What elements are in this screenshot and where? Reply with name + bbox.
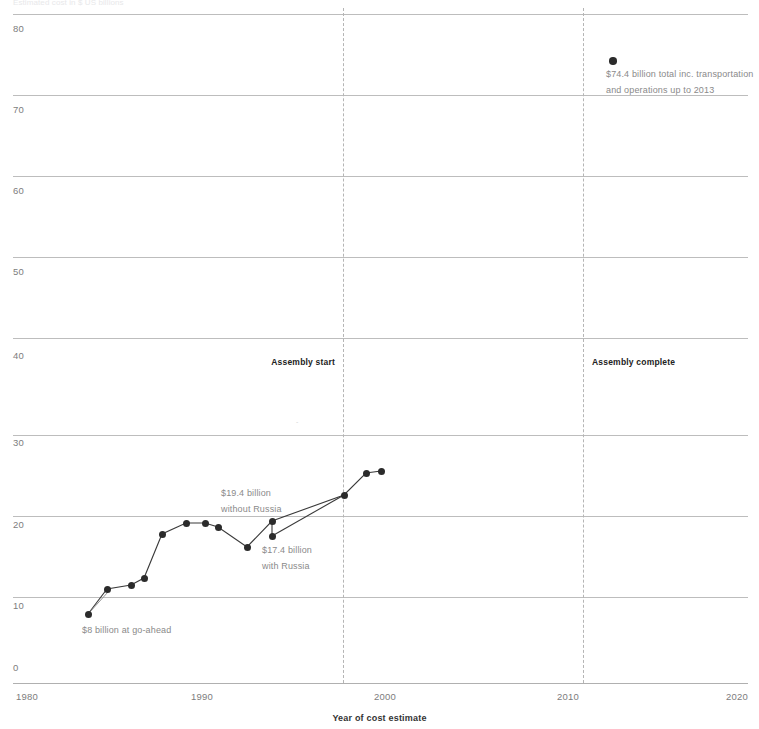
data-point xyxy=(141,575,148,582)
go-ahead-leader-line xyxy=(89,592,108,613)
annotation-total-2013: $74.4 billion total inc. transportation … xyxy=(606,66,753,98)
with-russia-branch-line xyxy=(272,495,344,536)
data-point xyxy=(202,520,209,527)
plot-area: 80 70 60 50 40 30 20 10 0 - Assembly sta… xyxy=(0,0,759,729)
data-point-with-russia xyxy=(269,533,276,540)
annotation-with-russia-line1: $17.4 billion xyxy=(262,542,312,558)
annotation-go-ahead: $8 billion at go-ahead xyxy=(82,622,171,638)
data-point xyxy=(341,492,348,499)
data-point-total-2013 xyxy=(609,57,617,65)
xtick-2010: 2010 xyxy=(557,691,579,702)
annotation-total-2013-line2: and operations up to 2013 xyxy=(606,82,753,98)
annotation-with-russia: $17.4 billion with Russia xyxy=(262,542,312,574)
data-point xyxy=(378,468,385,475)
data-point xyxy=(215,524,222,531)
series-lines xyxy=(0,0,759,729)
data-point xyxy=(363,470,370,477)
data-point xyxy=(128,582,135,589)
xtick-2000: 2000 xyxy=(374,691,396,702)
annotation-without-russia-line1: $19.4 billion xyxy=(221,485,282,501)
data-point xyxy=(159,531,166,538)
data-point xyxy=(104,586,111,593)
xtick-1990: 1990 xyxy=(191,691,213,702)
annotation-with-russia-line2: with Russia xyxy=(262,558,312,574)
annotation-without-russia: $19.4 billion without Russia xyxy=(221,485,282,517)
data-point xyxy=(183,520,190,527)
data-point xyxy=(85,611,92,618)
data-point-without-russia xyxy=(269,518,276,525)
data-point xyxy=(244,544,251,551)
annotation-without-russia-line2: without Russia xyxy=(221,501,282,517)
xtick-2020: 2020 xyxy=(726,691,748,702)
chart-root: Estimated cost in $ US billions 80 70 60… xyxy=(0,0,759,729)
annotation-total-2013-line1: $74.4 billion total inc. transportation xyxy=(606,66,753,82)
xtick-1980: 1980 xyxy=(16,691,38,702)
x-axis-label: Year of cost estimate xyxy=(0,713,759,723)
